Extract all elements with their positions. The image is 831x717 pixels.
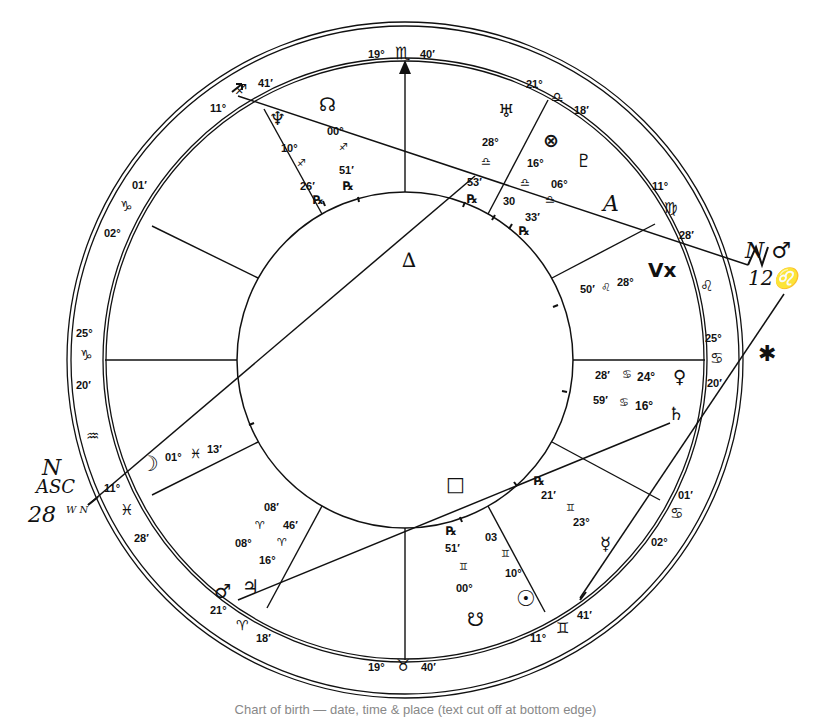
- vertex-sign: ♌: [601, 282, 611, 293]
- dsc-minutes: 20′: [76, 380, 91, 391]
- north-node-note-2: 12♌: [748, 268, 798, 288]
- moon-sign: ♓: [190, 447, 202, 460]
- dsc-degree: 25°: [76, 328, 93, 339]
- h5-degree: 21°: [210, 605, 227, 616]
- chart-caption: Chart of birth — date, time & place (tex…: [0, 702, 831, 717]
- jupiter-icon: ♃: [242, 577, 259, 596]
- mc-minutes: 40′: [420, 49, 435, 60]
- h12-sign-virgo: ♍: [664, 201, 677, 216]
- pluto-retrograde: ℞: [519, 225, 530, 237]
- uranus-retrograde: ℞: [467, 193, 478, 205]
- north-node-minutes: 51′: [339, 165, 354, 176]
- h9-degree: 11°: [210, 103, 226, 114]
- planet-tick-marks: [249, 197, 586, 600]
- north-node-retrograde: ℞: [343, 180, 354, 192]
- h6-degree: 11°: [104, 483, 120, 494]
- saturn-degree: 16°: [635, 400, 653, 412]
- h11-sign-libra: ♎: [551, 90, 564, 104]
- mercury-sign: ♊: [566, 503, 575, 513]
- pluto-degree: 06°: [551, 179, 568, 190]
- mercury-degree: 23°: [573, 517, 590, 528]
- h2-degree: 02°: [651, 537, 668, 548]
- venus-sign: ♋: [622, 369, 632, 380]
- hand-a-mark: A: [603, 193, 619, 215]
- h9-sign-sagittarius: ♐: [235, 82, 248, 96]
- h12-degree: 11°: [652, 181, 668, 192]
- neptune-retrograde: ℞: [313, 194, 324, 206]
- mercury-icon: ☿: [600, 535, 611, 553]
- jupiter-minutes: 46′: [283, 520, 298, 531]
- mars-icon: ♂: [214, 582, 231, 601]
- h3-sign-gemini: ♊: [556, 621, 569, 636]
- saturn-sign: ♋: [619, 397, 629, 408]
- sun-sign: ♊: [501, 549, 510, 559]
- h8-degree: 02°: [104, 228, 121, 239]
- north-node-note-1: N ♂: [745, 240, 791, 262]
- h12-minutes: 28′: [679, 230, 694, 241]
- sun-degree: 10°: [505, 568, 522, 579]
- uranus-icon: ♅: [498, 102, 514, 120]
- asc-minutes: 20′: [707, 378, 722, 389]
- part-of-fortune-icon: ⊗: [543, 131, 559, 150]
- neptune-degree: 10°: [281, 143, 298, 154]
- star-mark-icon: ✱: [758, 343, 776, 365]
- pluto-sign: ♎: [545, 194, 555, 205]
- h11-minutes: 18′: [574, 105, 589, 116]
- mars-degree: 08°: [235, 538, 252, 549]
- h11-degree: 21°: [526, 79, 543, 90]
- fortune-sign: ♎: [520, 177, 530, 188]
- ic-minutes: 40′: [421, 662, 436, 673]
- h2-minutes: 01′: [678, 490, 693, 501]
- vertex-degree: 28°: [617, 277, 634, 288]
- venus-degree: 24°: [637, 371, 655, 383]
- uranus-sign: ♎: [481, 156, 491, 167]
- hand-triangle-mark: ∆: [402, 250, 416, 270]
- north-node-sign: ♐: [339, 142, 348, 152]
- fortune-minutes: 30: [503, 196, 515, 207]
- pluto-icon: ♇: [576, 152, 592, 170]
- neptune-minutes: 26′: [300, 181, 315, 192]
- asc-sign-cancer: ♋: [710, 351, 723, 366]
- neptune-sign: ♐: [297, 158, 306, 168]
- venus-minutes: 28′: [595, 370, 610, 381]
- mc-degree: 19°: [368, 49, 385, 60]
- sun-icon: ☉: [516, 588, 536, 610]
- north-node-degree: 00°: [327, 126, 344, 137]
- dsc-sign-capricorn: ♑: [80, 348, 93, 362]
- h6-minutes: 28′: [134, 533, 149, 544]
- saturn-icon: ♄: [668, 405, 684, 423]
- h3-degree: 11°: [530, 633, 546, 644]
- neptune-icon: ♆: [269, 109, 286, 128]
- venus-icon: ♀: [673, 368, 686, 386]
- sun-minutes: 03: [485, 532, 497, 543]
- mars-sign: ♈: [255, 520, 265, 531]
- h2-sign-cancer: ♋: [670, 506, 683, 521]
- asc-note-2: ASC: [36, 478, 75, 496]
- south-node-icon: ☋: [467, 610, 484, 629]
- moon-degree: 01°: [165, 452, 182, 463]
- pluto-minutes: 33′: [525, 212, 540, 223]
- h9-minutes: 41′: [258, 78, 273, 89]
- ic-sign-taurus: ♉: [396, 658, 410, 674]
- south-node-minutes: 51′: [445, 543, 460, 554]
- vertex-minutes: 50′: [580, 284, 595, 295]
- h5-minutes: 18′: [256, 633, 271, 644]
- h12-sign-leo: ♌: [700, 279, 713, 294]
- south-node-sign: ♊: [459, 562, 468, 572]
- saturn-minutes: 59′: [593, 395, 608, 406]
- hand-square-mark: □: [446, 474, 465, 494]
- asc-note-sub: W N: [66, 505, 88, 515]
- h7-sign-aquarius: ♒: [86, 429, 99, 444]
- moon-minutes: 13′: [207, 444, 222, 455]
- uranus-degree: 28°: [482, 137, 499, 148]
- h3-minutes: 41′: [577, 610, 592, 621]
- house-cusp-lines: [105, 72, 705, 660]
- uranus-minutes: 53′: [467, 177, 482, 188]
- h5-sign-aries: ♈: [236, 618, 249, 632]
- h6-sign-pisces: ♓: [120, 503, 133, 518]
- mercury-minutes: 21′: [541, 490, 556, 501]
- fortune-degree: 16°: [527, 158, 544, 169]
- ic-degree: 19°: [368, 662, 385, 673]
- south-node-degree: 00°: [456, 583, 473, 594]
